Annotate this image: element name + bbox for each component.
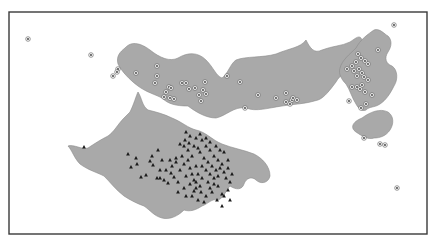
circle-marker-icon — [378, 142, 383, 147]
circle-marker-icon — [370, 93, 375, 98]
circle-marker-icon — [256, 93, 261, 98]
circle-marker-icon — [366, 62, 371, 67]
circle-marker-icon — [357, 67, 362, 72]
circle-marker-icon — [383, 143, 388, 148]
circle-marker-icon — [197, 93, 202, 98]
circle-marker-icon — [359, 106, 364, 111]
circle-marker-icon — [193, 86, 198, 91]
circle-marker-icon — [111, 74, 116, 79]
circle-marker-icon — [201, 88, 206, 93]
circle-marker-icon — [225, 74, 230, 79]
circle-marker-icon — [187, 87, 192, 92]
circle-marker-icon — [169, 86, 174, 91]
circle-marker-icon — [376, 48, 381, 53]
circle-marker-icon — [155, 74, 160, 79]
circle-marker-icon — [354, 60, 359, 65]
circle-marker-icon — [362, 75, 367, 80]
circle-marker-icon — [366, 78, 371, 83]
circle-marker-icon — [364, 102, 369, 107]
circle-marker-icon — [89, 53, 94, 58]
map-figure — [0, 0, 435, 244]
circle-marker-icon — [295, 98, 300, 103]
circle-marker-icon — [347, 99, 352, 104]
triangle-marker-icon — [220, 204, 224, 207]
circle-marker-icon — [345, 67, 350, 72]
circle-marker-icon — [155, 64, 160, 69]
triangle-marker-icon — [82, 145, 86, 148]
circle-marker-icon — [203, 80, 208, 85]
east-island — [353, 110, 393, 138]
circle-marker-icon — [358, 87, 363, 92]
circle-marker-icon — [172, 97, 177, 102]
circle-marker-icon — [352, 69, 357, 74]
circle-marker-icon — [356, 52, 361, 57]
circle-marker-icon — [274, 96, 279, 101]
circle-marker-icon — [363, 90, 368, 95]
north-region — [117, 37, 364, 118]
circle-marker-icon — [153, 81, 158, 86]
circle-marker-icon — [162, 95, 167, 100]
circle-marker-icon — [184, 81, 189, 86]
south-region — [68, 92, 270, 219]
circle-marker-icon — [238, 80, 243, 85]
regions-layer — [68, 30, 397, 219]
circle-marker-icon — [350, 85, 355, 90]
circle-marker-icon — [204, 92, 209, 97]
circle-marker-icon — [350, 64, 355, 69]
circle-marker-icon — [164, 90, 169, 95]
circle-marker-icon — [199, 99, 204, 104]
circle-marker-icon — [243, 106, 248, 111]
circle-marker-icon — [359, 56, 364, 61]
circle-marker-icon — [362, 136, 367, 141]
circle-marker-icon — [392, 23, 397, 28]
circle-marker-icon — [26, 37, 31, 42]
circle-marker-icon — [355, 74, 360, 79]
triangle-marker-icon — [228, 198, 232, 201]
circle-marker-icon — [134, 71, 139, 76]
circle-marker-icon — [284, 91, 289, 96]
circle-marker-icon — [115, 70, 120, 75]
circle-marker-icon — [395, 186, 400, 191]
